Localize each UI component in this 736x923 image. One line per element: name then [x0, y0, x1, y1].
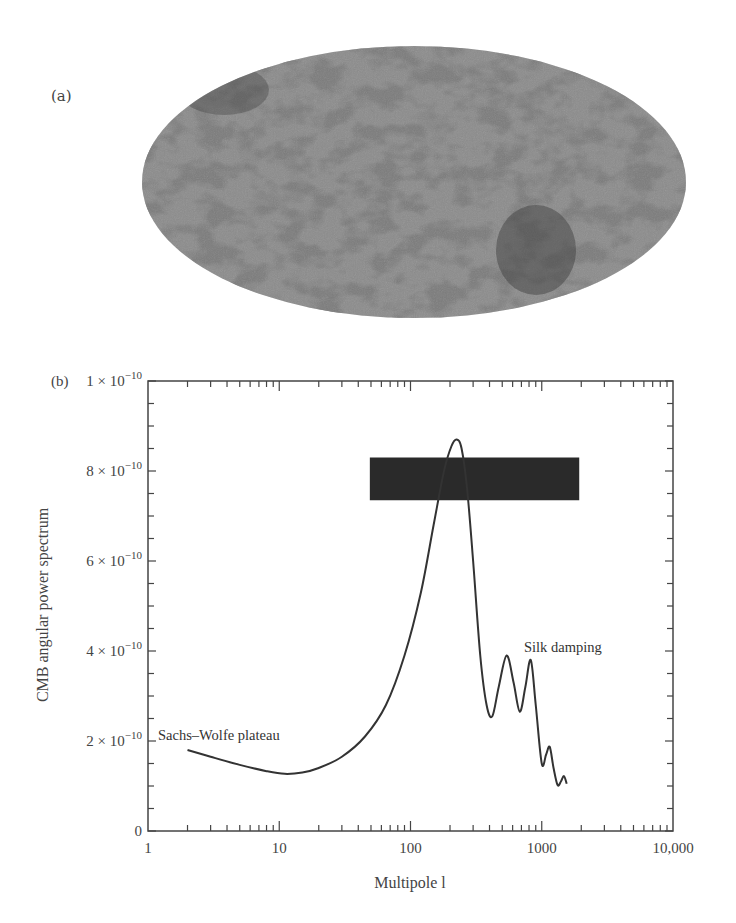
y-tick-label: 4 × 10−10 [86, 639, 142, 659]
x-tick-label: 10 [272, 840, 287, 856]
annotation-sachs-wolfe: Sachs–Wolfe plateau [158, 727, 280, 743]
power-spectrum-chart: 110100100010,00002 × 10−104 × 10−106 × 1… [0, 0, 736, 923]
x-tick-label: 1000 [527, 840, 557, 856]
measurement-band-box [370, 458, 579, 501]
plot-frame [148, 381, 673, 831]
y-tick-label: 1 × 10−10 [86, 369, 142, 389]
y-tick-label: 2 × 10−10 [86, 729, 142, 749]
y-axis-title: CMB angular power spectrum [34, 507, 52, 702]
x-tick-label: 1 [144, 840, 152, 856]
y-tick-label: 6 × 10−10 [86, 549, 142, 569]
y-tick-label: 0 [135, 823, 143, 839]
y-tick-label: 8 × 10−10 [86, 459, 142, 479]
annotation-silk-damping: Silk damping [524, 639, 602, 655]
axis-ticks [148, 381, 673, 831]
x-axis-title: Multipole l [374, 874, 446, 892]
panel-b-label: (b) [51, 373, 69, 390]
x-tick-label: 100 [399, 840, 422, 856]
x-tick-label: 10,000 [652, 840, 693, 856]
